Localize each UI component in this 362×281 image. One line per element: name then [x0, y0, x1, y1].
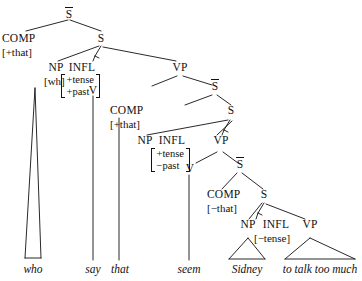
node-comp3-feature: [−that]: [207, 203, 237, 214]
edge-s3-infl3-arrow-a: [258, 213, 262, 215]
node-infl1: INFL: [69, 62, 95, 74]
node-infl2: INFL: [159, 135, 185, 147]
infl2-feature-rows: +tense −past: [155, 148, 186, 172]
node-comp3: COMP: [207, 189, 240, 201]
node-sbar3-label: S: [236, 159, 244, 171]
triangle-who-left: [25, 88, 35, 258]
terminal-who: who: [23, 264, 42, 276]
node-comp1-feature: [+that]: [2, 47, 32, 58]
node-infl3-feature: [−tense]: [254, 233, 290, 244]
node-s1: S: [98, 33, 105, 45]
terminal-sidney: Sidney: [232, 264, 263, 276]
edge-s3-infl3-arrow-b: [256, 213, 258, 219]
node-vp3: VP: [302, 219, 317, 231]
edge-s1-vp1: [103, 47, 176, 61]
edge-s2-vp2: [217, 121, 232, 135]
node-vp2: VP: [213, 135, 228, 147]
node-comp2: COMP: [110, 105, 143, 117]
triangle-who-right: [35, 88, 41, 258]
node-sbar-root-label: S: [65, 9, 73, 21]
triangle-sidney-left: [229, 238, 248, 259]
node-v2: V: [186, 163, 195, 175]
edge-s2-infl2-arrow-a: [224, 130, 228, 132]
infl2-feature-tense: +tense: [157, 148, 185, 160]
node-infl3: INFL: [263, 219, 289, 231]
node-comp1: COMP: [2, 33, 35, 45]
node-sbar3: S: [236, 157, 244, 171]
node-sbar2-label: S: [211, 81, 219, 93]
node-sbar2: S: [211, 79, 219, 93]
node-vp1: VP: [172, 62, 187, 74]
node-np1: NP: [48, 62, 63, 74]
edge-vp1-sbar2: [183, 76, 212, 85]
edge-vp1-v1: [152, 76, 177, 86]
edge-sbar3-comp3: [222, 173, 237, 189]
node-sbar-root: S: [65, 7, 73, 21]
edge-s3-np3: [249, 203, 262, 219]
terminal-say: say: [85, 264, 100, 276]
node-np2: NP: [137, 135, 152, 147]
triangle-totalktoomuch-right: [310, 238, 355, 259]
node-np3: NP: [240, 219, 255, 231]
edge-s3-vp3: [266, 204, 305, 219]
terminal-that: that: [111, 264, 129, 276]
node-s2: S: [228, 105, 235, 117]
terminal-to-talk-too-much: to talk too much: [283, 264, 357, 276]
edge-s1-infl1-arrow-a: [95, 56, 99, 58]
edge-s2-infl2: [224, 120, 230, 130]
edge-s2-np2: [147, 120, 228, 135]
edge-sbar-root-s1: [70, 20, 101, 31]
terminal-seem: seem: [178, 264, 201, 276]
edge-vp2-v2: [196, 152, 217, 163]
node-comp2-feature: [+that]: [110, 119, 140, 130]
edge-sbar3-s3: [242, 173, 263, 189]
node-infl2-feature-matrix: +tense −past: [151, 148, 190, 172]
node-s3: S: [261, 189, 268, 201]
syntax-tree-figure: S COMP [+that] S NP [wh] INFL +tense +pa…: [0, 0, 362, 281]
node-v1: V: [89, 85, 98, 97]
edge-sbar2-comp2: [185, 95, 212, 105]
edge-sbar-root-comp1: [26, 20, 68, 31]
edge-s1-np1: [58, 46, 99, 61]
infl2-feature-past: −past: [157, 160, 185, 172]
